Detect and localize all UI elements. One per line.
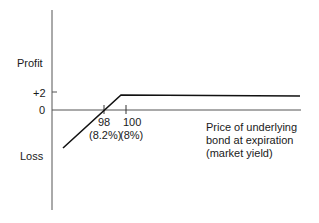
payoff-chart xyxy=(0,0,319,223)
x-tick-label-100: 100 xyxy=(123,116,141,128)
loss-label: Loss xyxy=(20,150,43,162)
x-axis-label-line1: Price of underlying xyxy=(206,121,297,133)
y-tick-label-plus2: +2 xyxy=(33,87,46,99)
x-tick-label-98: 98 xyxy=(98,116,110,128)
x-tick-yield-98: (8.2%) xyxy=(89,129,121,141)
profit-label: Profit xyxy=(17,57,43,69)
x-tick-yield-100: (8%) xyxy=(120,129,143,141)
x-axis-label-line3: (market yield) xyxy=(206,147,273,159)
y-tick-label-zero: 0 xyxy=(39,104,45,116)
x-axis-label-line2: bond at expiration xyxy=(206,134,293,146)
